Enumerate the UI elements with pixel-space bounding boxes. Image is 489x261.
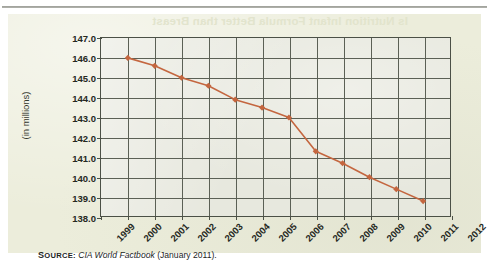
gridline-vertical bbox=[398, 38, 399, 216]
x-tick-mark bbox=[128, 216, 129, 220]
line-chart: (in millions) 147.0146.0145.0144.0143.01… bbox=[8, 14, 481, 253]
gridline-vertical bbox=[425, 38, 426, 216]
y-axis-label: (in millions) bbox=[20, 73, 31, 159]
y-tick-label: 140.0 bbox=[72, 173, 96, 184]
x-tick-label: 2005 bbox=[276, 221, 299, 244]
y-tick-label: 145.0 bbox=[72, 73, 96, 84]
source-label: SOURCE: bbox=[38, 251, 76, 260]
plot-area: 147.0146.0145.0144.0143.0142.0141.0140.0… bbox=[100, 37, 451, 217]
gridline-vertical bbox=[263, 38, 264, 216]
x-tick-mark bbox=[236, 216, 237, 220]
gridline-vertical bbox=[371, 38, 372, 216]
gridline-vertical bbox=[290, 38, 291, 216]
gridline-vertical bbox=[128, 38, 129, 216]
y-tick-mark bbox=[97, 38, 102, 39]
x-tick-label: 2001 bbox=[168, 221, 191, 244]
gridline-vertical bbox=[344, 38, 345, 216]
source-label-colon: : bbox=[73, 251, 76, 260]
gridline-vertical bbox=[155, 38, 156, 216]
gridline-vertical bbox=[317, 38, 318, 216]
x-tick-label: 2004 bbox=[249, 221, 272, 244]
source-date: (January 2011). bbox=[157, 250, 217, 260]
x-tick-label: 2009 bbox=[384, 221, 407, 244]
y-tick-mark bbox=[97, 98, 102, 99]
y-tick-label: 143.0 bbox=[72, 113, 96, 124]
x-tick-mark bbox=[290, 216, 291, 220]
series-line bbox=[128, 58, 423, 201]
y-tick-mark bbox=[97, 198, 102, 199]
x-tick-mark bbox=[317, 216, 318, 220]
x-tick-mark bbox=[101, 216, 102, 220]
gridline-vertical bbox=[182, 38, 183, 216]
y-tick-label: 138.0 bbox=[72, 213, 96, 224]
x-tick-label: 1999 bbox=[114, 221, 137, 244]
gridline-vertical bbox=[236, 38, 237, 216]
gridline-vertical bbox=[209, 38, 210, 216]
x-tick-mark bbox=[371, 216, 372, 220]
page-top-rule bbox=[2, 6, 487, 8]
y-tick-mark bbox=[97, 118, 102, 119]
x-tick-label: 2002 bbox=[195, 221, 218, 244]
x-tick-mark bbox=[425, 216, 426, 220]
source-caption: SOURCE: CIA World Factbook (January 2011… bbox=[38, 250, 217, 260]
source-label-rest: OURCE bbox=[44, 251, 73, 260]
x-tick-mark bbox=[344, 216, 345, 220]
x-tick-label: 2003 bbox=[222, 221, 245, 244]
x-tick-label: 2000 bbox=[141, 221, 164, 244]
x-tick-mark bbox=[452, 216, 453, 220]
x-tick-label: 2007 bbox=[330, 221, 353, 244]
y-tick-mark bbox=[97, 178, 102, 179]
x-tick-label: 2012 bbox=[465, 221, 488, 244]
y-tick-label: 142.0 bbox=[72, 133, 96, 144]
x-tick-label: 2010 bbox=[411, 221, 434, 244]
source-work-title: CIA World Factbook bbox=[78, 250, 155, 260]
x-tick-mark bbox=[209, 216, 210, 220]
page-background: Is Nutrition Infant Formula Better than … bbox=[0, 0, 489, 261]
y-tick-mark bbox=[97, 58, 102, 59]
y-tick-mark bbox=[97, 78, 102, 79]
y-tick-mark bbox=[97, 158, 102, 159]
x-tick-label: 2008 bbox=[357, 221, 380, 244]
y-tick-label: 146.0 bbox=[72, 53, 96, 64]
y-tick-mark bbox=[97, 138, 102, 139]
y-tick-label: 139.0 bbox=[72, 193, 96, 204]
y-tick-label: 144.0 bbox=[72, 93, 96, 104]
x-tick-mark bbox=[155, 216, 156, 220]
y-tick-label: 147.0 bbox=[72, 33, 96, 44]
x-tick-mark bbox=[398, 216, 399, 220]
x-tick-mark bbox=[182, 216, 183, 220]
y-tick-label: 141.0 bbox=[72, 153, 96, 164]
x-tick-label: 2006 bbox=[303, 221, 326, 244]
x-tick-label: 2011 bbox=[438, 221, 460, 243]
x-tick-mark bbox=[263, 216, 264, 220]
